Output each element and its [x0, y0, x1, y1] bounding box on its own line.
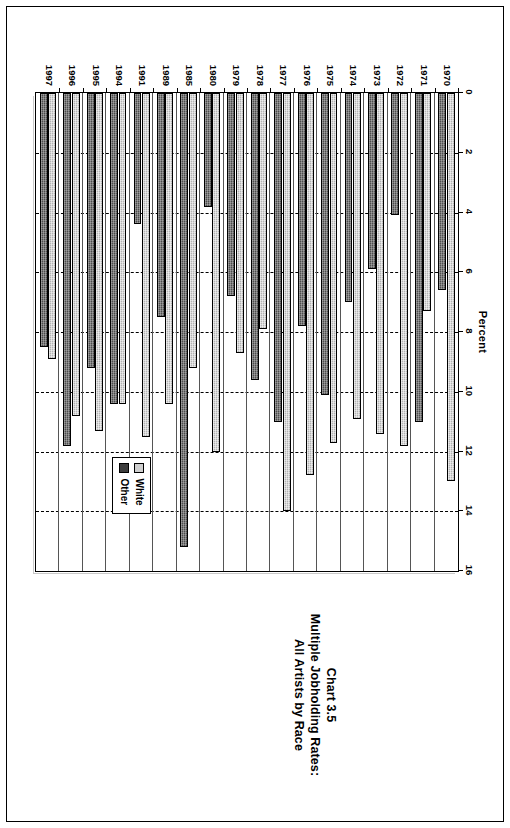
bar-white-1989	[165, 93, 173, 404]
legend-item-white: White	[131, 463, 146, 505]
x-tick-label: 8	[464, 328, 475, 333]
bar-other-1977	[274, 93, 282, 422]
bar-other-1971	[415, 93, 423, 422]
x-tick-label: 6	[464, 269, 475, 274]
bar-white-1977	[283, 93, 291, 511]
category-separator	[82, 93, 83, 571]
bar-white-1997	[48, 93, 56, 359]
category-separator	[105, 93, 106, 571]
bar-white-1995	[95, 93, 103, 431]
x-tick-label: 14	[464, 505, 475, 516]
plot-area: White Other	[35, 92, 459, 572]
bar-white-1970	[447, 93, 455, 481]
bar-white-1971	[423, 93, 431, 311]
category-separator	[387, 93, 388, 571]
gridline	[36, 571, 458, 572]
bar-white-1979	[236, 93, 244, 353]
y-category-label-1972: 1972	[395, 34, 406, 86]
y-category-label-1995: 1995	[90, 34, 101, 86]
bar-other-1997	[40, 93, 48, 347]
bar-other-1991	[134, 93, 142, 224]
legend-item-other: Other	[117, 463, 132, 505]
category-separator	[176, 93, 177, 571]
y-category-label-1973: 1973	[371, 34, 382, 86]
bar-white-1994	[119, 93, 127, 404]
y-category-label-1977: 1977	[278, 34, 289, 86]
x-axis-title: Percent	[477, 92, 489, 572]
bar-other-1980	[204, 93, 212, 207]
bar-other-1994	[110, 93, 118, 404]
bar-other-1979	[227, 93, 235, 296]
legend-swatch-white-icon	[134, 463, 144, 473]
bar-white-1991	[142, 93, 150, 437]
bar-other-1995	[87, 93, 95, 368]
category-separator	[58, 93, 59, 571]
category-separator	[363, 93, 364, 571]
chart-title: Chart 3.5 Multiple Jobholding Rates: All…	[291, 600, 339, 790]
bar-other-1996	[63, 93, 71, 446]
legend-label-other: Other	[117, 478, 132, 505]
category-separator	[410, 93, 411, 571]
bar-other-1973	[368, 93, 376, 269]
chart-legend: White Other	[112, 457, 151, 513]
x-tick-label: 2	[464, 149, 475, 154]
y-category-label-1989: 1989	[160, 34, 171, 86]
y-category-label-1974: 1974	[348, 34, 359, 86]
y-category-label-1975: 1975	[325, 34, 336, 86]
y-category-label-1978: 1978	[254, 34, 265, 86]
y-category-label-1971: 1971	[418, 34, 429, 86]
bar-other-1978	[251, 93, 259, 380]
bar-white-1975	[330, 93, 338, 443]
category-separator	[316, 93, 317, 571]
x-tick-label: 10	[464, 385, 475, 396]
chart-title-line-1: Chart 3.5	[323, 600, 339, 790]
legend-swatch-other-icon	[119, 463, 129, 473]
bar-white-1978	[259, 93, 267, 329]
legend-label-white: White	[131, 478, 146, 505]
y-category-label-1985: 1985	[184, 34, 195, 86]
category-separator	[269, 93, 270, 571]
y-category-label-1996: 1996	[67, 34, 78, 86]
chart-title-line-2: Multiple Jobholding Rates:	[307, 600, 323, 790]
bar-white-1973	[376, 93, 384, 434]
y-category-label-1979: 1979	[231, 34, 242, 86]
bar-white-1996	[72, 93, 80, 416]
bar-white-1972	[400, 93, 408, 446]
bar-other-1974	[345, 93, 353, 302]
bar-other-1970	[438, 93, 446, 290]
bar-other-1975	[321, 93, 329, 395]
x-tick-label: 4	[464, 209, 475, 214]
gridline	[36, 452, 458, 453]
category-separator	[340, 93, 341, 571]
chart-title-line-3: All Artists by Race	[291, 600, 307, 790]
y-category-label-1997: 1997	[43, 34, 54, 86]
bar-white-1985	[189, 93, 197, 368]
bar-white-1980	[212, 93, 220, 452]
category-separator	[293, 93, 294, 571]
y-category-label-1980: 1980	[207, 34, 218, 86]
y-category-label-1994: 1994	[114, 34, 125, 86]
x-tick-label: 0	[464, 89, 475, 94]
category-separator	[152, 93, 153, 571]
rotated-figure-wrapper: Chart 3.5 Multiple Jobholding Rates: All…	[0, 0, 510, 828]
category-separator	[246, 93, 247, 571]
bar-other-1989	[157, 93, 165, 317]
category-separator	[223, 93, 224, 571]
y-category-label-1976: 1976	[301, 34, 312, 86]
bar-other-1985	[180, 93, 188, 547]
gridline	[36, 511, 458, 512]
bar-other-1972	[391, 93, 399, 215]
y-category-label-1970: 1970	[442, 34, 453, 86]
bar-white-1976	[306, 93, 314, 475]
category-separator	[199, 93, 200, 571]
bar-white-1974	[353, 93, 361, 419]
x-tick-label: 12	[464, 445, 475, 456]
y-category-label-1991: 1991	[137, 34, 148, 86]
chart-figure: Chart 3.5 Multiple Jobholding Rates: All…	[21, 34, 489, 794]
bar-other-1976	[298, 93, 306, 326]
category-separator	[434, 93, 435, 571]
x-tick-label: 16	[464, 565, 475, 576]
